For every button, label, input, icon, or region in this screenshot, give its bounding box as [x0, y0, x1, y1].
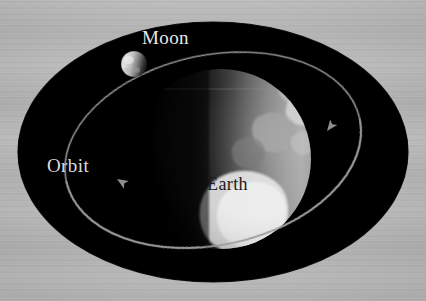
figure-canvas: Moon Orbit Earth [0, 0, 426, 301]
scene-illustration [0, 0, 426, 301]
moon-sphere [121, 51, 147, 77]
